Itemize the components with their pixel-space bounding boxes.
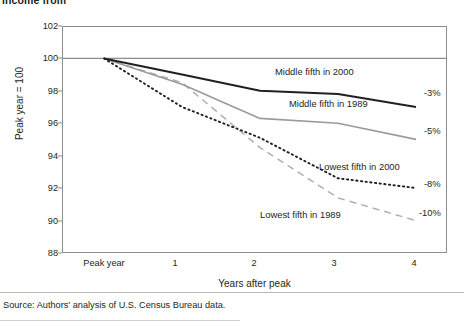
- endpoint-label-lowest-fifth-1989: -10%: [419, 207, 441, 218]
- series-label-lowest-fifth-1989: Lowest fifth in 1989: [260, 209, 341, 220]
- endpoint-label-middle-fifth-1989: -5%: [424, 125, 441, 136]
- x-tick-2: 2: [251, 258, 256, 268]
- y-axis-title: Peak year = 100: [14, 29, 25, 179]
- series-label-middle-fifth-1989: Middle fifth in 1989: [289, 98, 368, 109]
- endpoint-label-lowest-fifth-2000: -8%: [424, 178, 441, 189]
- y-axis-tick-marks: [0, 26, 64, 253]
- plot-area: [62, 26, 447, 253]
- source-divider: [0, 292, 464, 293]
- x-tick-peak-year: Peak year: [83, 258, 124, 268]
- x-tick-4: 4: [411, 258, 416, 268]
- figure-headline: income from: [2, 0, 66, 6]
- series-label-lowest-fifth-2000: Lowest fifth in 2000: [319, 161, 400, 172]
- series-label-middle-fifth-2000: Middle fifth in 2000: [275, 66, 354, 77]
- chart-figure: income from 88 90 92 94 96 98 100 102 Pe…: [0, 0, 464, 326]
- bottom-divider: [0, 320, 240, 321]
- x-tick-3: 3: [331, 258, 336, 268]
- x-tick-1: 1: [172, 258, 177, 268]
- source-note: Source: Authors' analysis of U.S. Census…: [3, 300, 225, 310]
- endpoint-label-middle-fifth-2000: -3%: [424, 87, 441, 98]
- x-axis-title: Years after peak: [62, 278, 447, 289]
